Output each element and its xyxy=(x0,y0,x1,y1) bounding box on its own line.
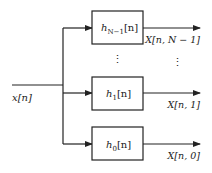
input-label: x[n] xyxy=(12,92,32,103)
filter-bank-diagram: x[n] hN−1[n] h1[n] h0[n] X[n, N − 1] X[n… xyxy=(0,0,212,173)
ellipsis-boxes: ⋮ xyxy=(112,53,123,66)
ellipsis-outputs: ⋮ xyxy=(172,56,183,69)
output-label-bottom: X[n, 0] xyxy=(167,150,201,161)
output-label-top: X[n, N − 1] xyxy=(144,34,200,45)
output-label-middle: X[n, 1] xyxy=(167,99,201,110)
